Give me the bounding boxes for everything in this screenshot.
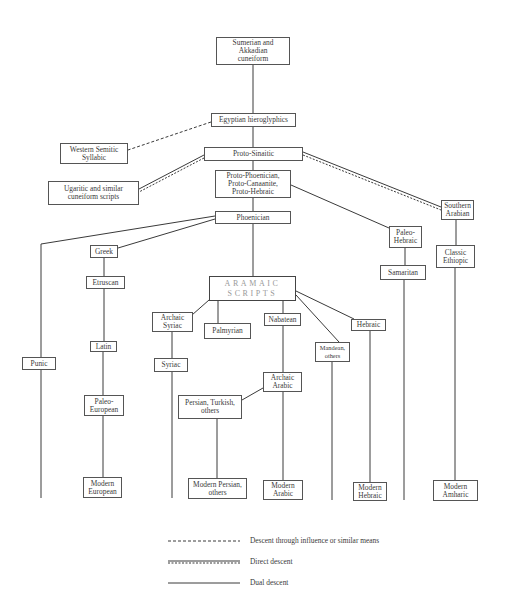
node-punic: Punic	[22, 357, 56, 370]
node-latin: Latin	[90, 341, 117, 352]
node-samaritan: Samaritan	[380, 265, 426, 280]
node-archaic-arabic: Archaic Arabic	[263, 372, 302, 392]
node-nabatean: Nabatean	[264, 313, 301, 326]
node-mandean-others: Mandean, others	[315, 342, 350, 362]
script-family-tree-diagram: Sumerian and Akkadian cuneiform Egyptian…	[0, 0, 508, 614]
node-palmyrian: Palmyrian	[204, 323, 251, 339]
legend-label-dual-descent: Dual descent	[250, 578, 288, 587]
node-southern-arabian: Southern Arabian	[441, 200, 474, 220]
node-etruscan: Etruscan	[86, 276, 125, 289]
node-phoenician: Phoenician	[215, 211, 291, 224]
legend-label-direct-descent: Direct descent	[250, 557, 292, 566]
node-modern-european: Modern European	[83, 477, 122, 498]
node-proto-phoenician: Proto-Phoenician, Proto-Canaanite, Proto…	[215, 170, 291, 198]
node-egyptian-hieroglyphics: Egyptian hieroglyphics	[211, 113, 296, 127]
legend-label-influence: Descent through influence or similar mea…	[250, 536, 379, 545]
node-modern-amharic: Modern Amharic	[433, 480, 478, 501]
node-hebraic: Hebraic	[351, 319, 386, 331]
node-classic-ethiopic: Classic Ethiopic	[436, 245, 475, 268]
node-greek: Greek	[90, 245, 118, 258]
node-modern-hebraic: Modern Hebraic	[353, 482, 387, 501]
node-ugaritic-cuneiform: Ugaritic and similar cuneiform scripts	[48, 181, 139, 205]
connector-lines	[0, 0, 508, 614]
node-syriac: Syriac	[154, 358, 188, 372]
node-archaic-syriac: Archaic Syriac	[152, 312, 193, 332]
node-proto-sinaitic: Proto-Sinaitic	[204, 147, 303, 161]
node-sumerian-akkadian-cuneiform: Sumerian and Akkadian cuneiform	[216, 37, 290, 65]
node-persian-turkish-others: Persian, Turkish, others	[178, 395, 242, 419]
node-modern-persian-others: Modern Persian, others	[188, 478, 247, 499]
node-aramaic-scripts: ARAMAIC SCRIPTS	[209, 276, 296, 301]
node-western-semitic-syllabic: Western Semitic Syllabic	[60, 143, 128, 164]
node-modern-arabic: Modern Arabic	[263, 480, 303, 500]
node-paleo-hebraic: Paleo-Hebraic	[389, 226, 422, 248]
node-paleo-european: Paleo-European	[84, 395, 124, 416]
